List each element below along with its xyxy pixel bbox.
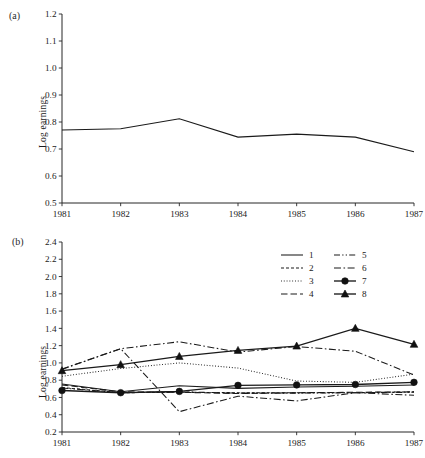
y-tick-label: 1.0: [45, 63, 57, 73]
series-marker-circle: [176, 388, 183, 395]
series-marker-triangle: [352, 324, 360, 331]
legend-label-1: 1: [309, 250, 314, 260]
series-marker-circle: [293, 382, 300, 389]
legend-label-5: 5: [362, 250, 367, 260]
series-line-6: [62, 349, 414, 412]
series-line-overall: [62, 119, 414, 152]
figure-container: (a) Log earnings 0.50.60.70.80.91.01.11.…: [0, 0, 425, 458]
y-tick-label: 0.4: [45, 410, 57, 420]
y-tick-label: 1.2: [45, 9, 57, 19]
x-tick-label: 1983: [170, 209, 189, 219]
y-tick-label: 2.4: [45, 237, 57, 247]
chart-panel-a: (a) Log earnings 0.50.60.70.80.91.01.11.…: [0, 0, 425, 228]
panel-a-tag: (a): [9, 10, 20, 21]
panel-b-ylabel: Log earnings: [38, 346, 48, 398]
legend-marker-circle: [342, 278, 349, 285]
x-tick-label: 1986: [346, 209, 365, 219]
x-tick-label: 1982: [111, 438, 130, 448]
series-marker-circle: [235, 382, 242, 389]
y-tick-label: 2.0: [45, 272, 57, 282]
legend-label-4: 4: [309, 289, 314, 299]
x-tick-label: 1983: [170, 438, 189, 448]
panel-b-tag: (b): [12, 236, 24, 247]
y-tick-label: 0.5: [45, 198, 57, 208]
legend: 12345678: [281, 250, 367, 299]
x-tick-label: 1987: [405, 438, 424, 448]
x-tick-label: 1981: [53, 438, 72, 448]
y-tick-label: 1.1: [45, 36, 57, 46]
x-tick-label: 1987: [405, 209, 424, 219]
legend-label-7: 7: [362, 276, 367, 286]
x-tick-label: 1982: [111, 209, 130, 219]
series-marker-circle: [411, 379, 418, 386]
y-tick-label: 1.4: [45, 324, 57, 334]
series-marker-circle: [117, 389, 124, 396]
y-tick-label: 1.8: [45, 289, 57, 299]
y-tick-label: 0.2: [45, 427, 57, 437]
x-tick-label: 1981: [53, 209, 72, 219]
x-tick-label: 1986: [346, 438, 365, 448]
panel-a-ylabel: Log earnings: [38, 96, 48, 148]
legend-label-2: 2: [309, 263, 314, 273]
legend-label-8: 8: [362, 289, 367, 299]
x-tick-label: 1985: [287, 438, 306, 448]
series-marker-circle: [352, 381, 359, 388]
panel-b-plot: 0.20.40.60.81.01.21.41.61.82.02.22.41981…: [0, 230, 425, 458]
x-tick-label: 1984: [229, 209, 248, 219]
y-tick-label: 0.6: [45, 171, 57, 181]
chart-panel-b: (b) Log earnings 0.20.40.60.81.01.21.41.…: [0, 230, 425, 458]
legend-label-6: 6: [362, 263, 367, 273]
panel-a-plot: 0.50.60.70.80.91.01.11.21981198219831984…: [0, 0, 425, 228]
legend-label-3: 3: [309, 276, 314, 286]
x-tick-label: 1984: [229, 438, 248, 448]
series-marker-circle: [59, 387, 66, 394]
y-tick-label: 1.6: [45, 306, 57, 316]
x-tick-label: 1985: [287, 209, 306, 219]
y-tick-label: 2.2: [45, 254, 57, 264]
